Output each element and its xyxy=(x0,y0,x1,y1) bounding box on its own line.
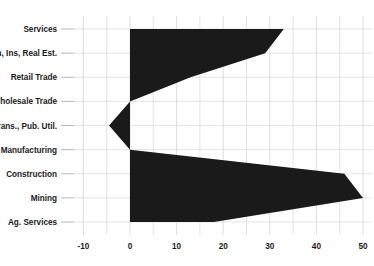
y-axis-tick-label: Retail Trade xyxy=(11,73,58,82)
y-axis-tick-label: Trans., Pub. Util. xyxy=(0,122,57,131)
y-axis-tick-label: Services xyxy=(23,25,57,34)
chart-container: ServicesFin, Ins, Real Est.Retail TradeW… xyxy=(0,0,374,266)
y-axis-tick-label: Construction xyxy=(6,170,57,179)
x-axis-tick-label: 50 xyxy=(358,242,368,251)
x-axis-tick-label: -10 xyxy=(77,242,89,251)
x-axis-tick-label: 10 xyxy=(172,242,182,251)
x-axis-tick-label: 20 xyxy=(219,242,229,251)
y-axis-tick-label: Mining xyxy=(31,194,57,203)
y-axis-tick-label: Manufacturing xyxy=(1,146,57,155)
y-axis-tick-label: Fin, Ins, Real Est. xyxy=(0,49,57,58)
y-axis-tick-label: Ag. Services xyxy=(8,218,58,227)
x-axis-tick-label: 40 xyxy=(312,242,322,251)
x-axis-tick-label: 0 xyxy=(128,242,133,251)
x-axis-tick-label: 30 xyxy=(265,242,275,251)
y-axis-tick-label: Wholesale Trade xyxy=(0,97,58,106)
horizontal-area-chart: ServicesFin, Ins, Real Est.Retail TradeW… xyxy=(0,0,374,266)
